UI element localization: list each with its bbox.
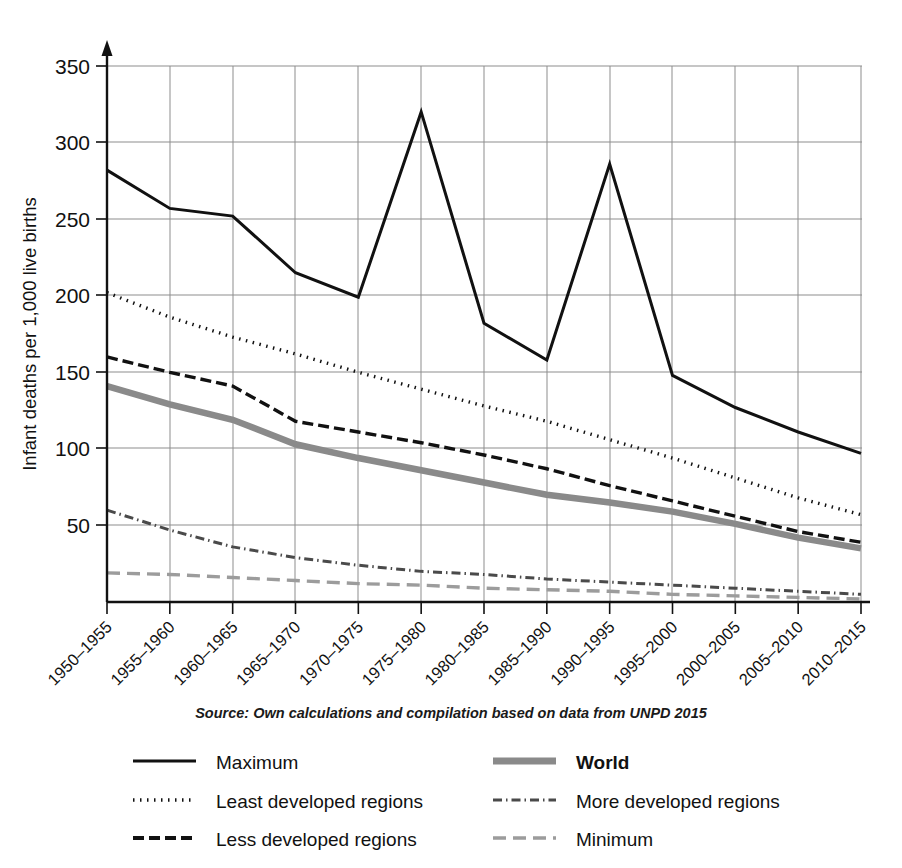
- axes: [102, 40, 871, 602]
- legend-label-minimum: Minimum: [576, 829, 653, 850]
- x-tick-label: 1955–1960: [107, 617, 178, 688]
- legend-label-world: World: [576, 752, 629, 773]
- infant-mortality-line-chart: 350 300 250 200 150 100 50 Infant deaths…: [0, 0, 902, 868]
- x-tick-label: 1975–1980: [358, 617, 429, 688]
- y-tick-label: 100: [55, 437, 90, 460]
- source-note: Source: Own calculations and compilation…: [195, 705, 708, 721]
- legend-label-least-developed-regions: Least developed regions: [216, 791, 423, 812]
- y-tick-label: 150: [55, 361, 90, 384]
- x-tick-label: 2010–2015: [798, 617, 869, 688]
- x-tick-label: 1970–1975: [295, 617, 366, 688]
- x-tick-label: 1950–1955: [44, 617, 115, 688]
- x-tick-marks: [107, 602, 861, 614]
- x-tick-labels: 1950–19551955–19601960–19651965–19701970…: [44, 617, 869, 688]
- x-tick-label: 1990–1995: [547, 617, 618, 688]
- x-tick-label: 1985–1990: [484, 617, 555, 688]
- y-tick-label: 350: [55, 55, 90, 78]
- legend-item-world[interactable]: World: [493, 752, 629, 773]
- x-tick-label: 2000–2005: [672, 617, 743, 688]
- legend-item-more-developed-regions[interactable]: More developed regions: [493, 791, 780, 812]
- chart-canvas: 350 300 250 200 150 100 50 Infant deaths…: [0, 0, 902, 868]
- legend-item-least-developed-regions[interactable]: Least developed regions: [133, 791, 423, 812]
- x-tick-label: 1965–1970: [232, 617, 303, 688]
- chart-legend: Maximum World Least developed regions Mo…: [133, 752, 780, 850]
- y-tick-label: 200: [55, 284, 90, 307]
- legend-label-more-developed-regions: More developed regions: [576, 791, 780, 812]
- y-axis-title: Infant deaths per 1,000 live births: [19, 197, 40, 471]
- legend-label-maximum: Maximum: [216, 752, 298, 773]
- y-tick-marks: [96, 66, 107, 525]
- y-tick-label: 300: [55, 131, 90, 154]
- y-tick-labels: 350 300 250 200 150 100 50: [55, 55, 90, 537]
- y-tick-label: 50: [67, 514, 90, 537]
- x-tick-label: 2005–2010: [735, 617, 806, 688]
- legend-item-minimum[interactable]: Minimum: [493, 829, 653, 850]
- legend-label-less-developed-regions: Less developed regions: [216, 829, 417, 850]
- x-tick-label: 1980–1985: [421, 617, 492, 688]
- x-tick-label: 1960–1965: [170, 617, 241, 688]
- legend-item-maximum[interactable]: Maximum: [133, 752, 298, 773]
- y-axis-arrowhead: [102, 40, 113, 56]
- x-tick-label: 1995–2000: [609, 617, 680, 688]
- y-tick-label: 250: [55, 208, 90, 231]
- legend-item-less-developed-regions[interactable]: Less developed regions: [133, 829, 417, 850]
